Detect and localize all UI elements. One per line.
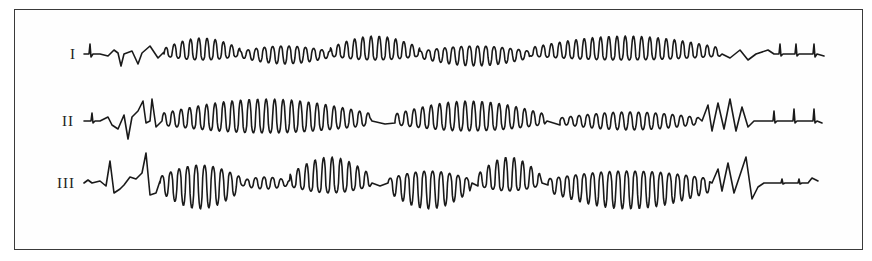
ecg-trace-lead-i [84, 36, 824, 66]
ecg-trace-lead-ii [84, 99, 822, 139]
ecg-trace-lead-iii [84, 153, 818, 209]
ecg-traces [0, 0, 872, 261]
